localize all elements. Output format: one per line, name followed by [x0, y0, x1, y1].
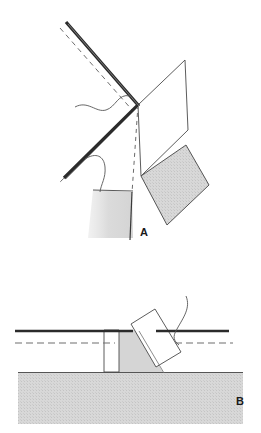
- fold-axis-dashed-line: [58, 28, 133, 184]
- ground-hatched-block: [18, 373, 243, 424]
- figure-root: A B: [0, 0, 261, 433]
- vertical-white-slab: [104, 330, 119, 372]
- panel-label-b: B: [236, 396, 244, 407]
- leader-line-lower-hook: [85, 156, 105, 192]
- fold-axis-thick-line: [64, 22, 138, 178]
- panel-b-group: [15, 296, 243, 424]
- panel-label-a: A: [140, 227, 148, 238]
- leader-line-right-curve: [174, 296, 187, 345]
- gray-plane-left: [88, 190, 133, 238]
- vertical-hinge-dashed-line: [132, 105, 138, 193]
- technical-figure-svg: [0, 0, 261, 433]
- fold-axis-highlight-line: [66, 24, 139, 179]
- panel-a-group: [58, 22, 209, 240]
